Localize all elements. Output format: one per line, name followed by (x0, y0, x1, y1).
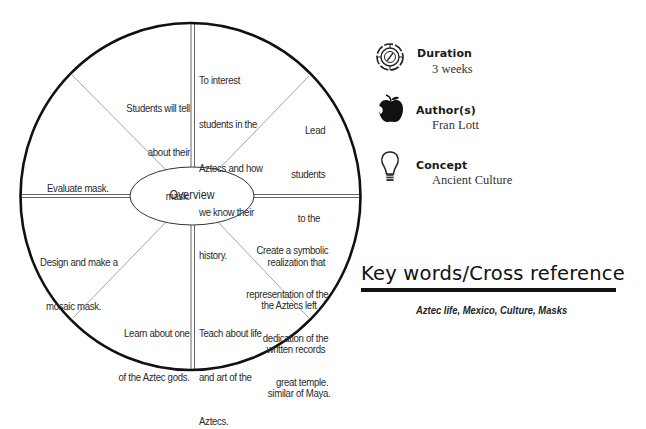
duration-title: Duration (417, 47, 472, 60)
segment-line: Aztecs and how (199, 161, 263, 176)
keywords-heading: Key words/Cross reference (361, 262, 625, 285)
segment-line: and art of the (199, 370, 262, 385)
segment-bottom-left: Learn about one of the Aztec gods. (119, 297, 190, 399)
segment-top-left: Students will tell about their mask. (126, 72, 190, 218)
segment-line: Design and make a (40, 255, 118, 270)
apple-icon (377, 94, 405, 124)
segment-line: Create a symbolic (246, 243, 328, 258)
keywords-underline (361, 288, 616, 292)
concept-title: Concept (416, 159, 467, 172)
segment-line: students in the (199, 117, 263, 132)
author-title: Author(s) (416, 104, 476, 117)
segment-line: students (261, 167, 330, 182)
lightbulb-icon (378, 150, 402, 184)
keywords-list: Aztec life, Mexico, Culture, Masks (416, 304, 567, 316)
segment-line: mask. (126, 189, 190, 204)
duration-value: 3 weeks (432, 62, 473, 77)
segment-line: mosaic mask. (40, 299, 118, 314)
segment-line: Lead (261, 123, 330, 138)
compass-badge-icon (375, 42, 405, 72)
segment-line: Students will tell (126, 101, 190, 116)
segment-left-lower: Design and make a mosaic mask. (40, 226, 118, 328)
segment-line: Learn about one (119, 326, 190, 341)
segment-line: Aztecs. (199, 414, 262, 429)
segment-line: Teach about life (199, 326, 262, 341)
author-value: Fran Lott (432, 118, 479, 133)
segment-line: about their (126, 145, 190, 160)
concept-value: Ancient Culture (432, 173, 512, 188)
segment-line: To interest (199, 73, 263, 88)
segment-bottom-right: Teach about life and art of the Aztecs. (199, 297, 262, 429)
segment-line: of the Aztec gods. (119, 370, 190, 385)
segment-left-upper: Evaluate mask. (47, 152, 109, 210)
segment-line: Evaluate mask. (47, 181, 109, 196)
